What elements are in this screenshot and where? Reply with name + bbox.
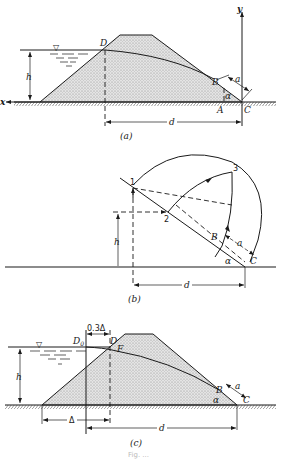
label-3-b: 3 [233,164,238,173]
label-D0-c: D0 [72,336,84,347]
a-ext-2 [242,89,252,100]
dash-1-to-arc [133,188,232,205]
label-A-a: A [216,105,224,115]
caption-b: (b) [128,294,141,304]
seepage-diagram: x y ▽ D h B α A C a d ( [0,0,281,459]
panel-c: ▽ 0.3Δ D0 D F h B α C a [5,324,276,448]
label-d-b: d [184,280,190,290]
x-axis-label: x [0,97,6,107]
panel-b: h 1 2 3 B α C a d (b) [5,155,276,304]
water-ripples-c [30,351,86,364]
label-alpha-b: α [225,256,231,266]
label-C-b: C [250,256,257,266]
dam-body-c [42,334,237,405]
label-B-c: B [215,385,223,395]
path-3-B [222,172,232,246]
panel-a: x y ▽ D h B α A C a d ( [0,4,276,141]
label-a-b: a [237,238,242,248]
water-symbol-a: ▽ [53,43,60,52]
label-d-c: d [159,423,165,433]
arrow-3-B [225,225,230,232]
label-h-b: h [114,237,120,247]
label-delta: Δ [69,416,75,425]
figure-caption: Fig. ... [128,451,149,459]
water-symbol-c: ▽ [36,340,43,349]
label-F-c: F [116,344,124,354]
label-D-c: D [109,336,117,346]
label-1-b: 1 [130,178,135,187]
y-axis-label: y [236,4,243,14]
label-a-a: a [235,74,240,84]
caption-a: (a) [120,131,133,141]
label-2-b: 2 [164,215,169,224]
label-d-a: d [169,117,175,127]
label-B-a: B [211,77,219,87]
label-C-a: C [244,105,251,115]
slope-line-b [120,178,245,267]
label-alpha-a: α [225,91,231,101]
label-h-c: h [16,372,22,382]
caption-c: (c) [130,438,143,448]
label-offset: 0.3Δ [87,324,106,333]
label-B-b: B [210,232,218,242]
water-ripples-a [50,54,88,66]
label-alpha-c: α [213,395,219,405]
label-h-a: h [26,72,32,82]
label-a-c: a [235,381,240,391]
dam-body-a [40,35,242,102]
label-D-a: D [99,38,107,48]
